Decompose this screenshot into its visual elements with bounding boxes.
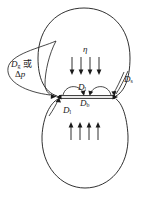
bottom-arrowhead-4	[96, 122, 101, 128]
label-surface-diffusion: Ds	[124, 75, 133, 85]
label-boundary-diffusion: Db	[80, 99, 89, 109]
bottom-arrow-group	[71, 125, 98, 140]
top-arrowhead-1	[70, 70, 75, 76]
label-delta-p: Δp	[15, 70, 25, 79]
label-lattice-diffusion-top: Dl	[78, 83, 86, 93]
label-driving-force-or: 或	[20, 59, 32, 69]
bottom-arrowhead-1	[69, 122, 74, 128]
diagram-canvas	[0, 0, 144, 197]
lower-sphere-outline	[42, 99, 128, 188]
bottom-arrowhead-2	[78, 122, 83, 128]
top-arrowheads	[70, 70, 102, 76]
lattice-diffusion-arc-right	[90, 87, 111, 95]
label-surface-diffusion-subscript: s	[131, 78, 133, 84]
label-lattice-diffusion-bottom: Dl	[63, 106, 71, 116]
lattice-diffusion-arc-right-arrowhead	[88, 91, 93, 96]
bottom-arrowheads	[69, 122, 101, 128]
top-arrowhead-4	[97, 70, 102, 76]
label-viscosity: η	[83, 45, 87, 54]
label-lattice-diffusion-top-subscript: l	[85, 86, 87, 92]
label-lattice-diffusion-bottom-subscript: l	[70, 109, 72, 115]
top-arrowhead-2	[79, 70, 84, 76]
top-arrowhead-3	[88, 70, 93, 76]
label-boundary-diffusion-subscript: b	[87, 102, 90, 108]
label-pressure-symbol: p	[21, 69, 26, 79]
bottom-arrowhead-3	[87, 122, 92, 128]
top-arrow-group	[72, 57, 99, 72]
sintering-diagram: Dg 或 Δp η Ds Dl Db Dl	[0, 0, 144, 197]
driving-force-leader-upper-edge	[45, 41, 56, 96]
